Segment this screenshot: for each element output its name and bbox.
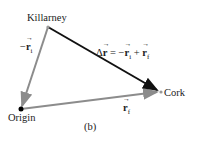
- r-symbol: r: [125, 47, 130, 58]
- rf-vector: [21, 92, 157, 109]
- subscript: f: [128, 108, 130, 116]
- r-symbol: r: [26, 41, 31, 52]
- killarney-label: Killarney: [27, 13, 67, 24]
- neg-ri-label: −ri: [20, 42, 33, 55]
- killarney-dot: [46, 25, 49, 28]
- vector-diagram: Killarney Cork Origin (b) −ri rf Δr = −r…: [0, 0, 199, 144]
- r-symbol: r: [103, 47, 108, 58]
- figure-label: (b): [84, 122, 96, 133]
- origin-dot: [19, 107, 24, 112]
- origin-label: Origin: [8, 113, 35, 124]
- plus-sign: +: [131, 47, 142, 58]
- delta-symbol: Δ: [96, 47, 103, 58]
- cork-dot: [159, 90, 162, 93]
- cork-label: Cork: [164, 88, 185, 99]
- delta-r-equation: Δr = −ri + rf: [96, 48, 149, 61]
- equals-minus: = −: [107, 47, 124, 58]
- r-symbol: r: [123, 102, 128, 113]
- subscript: f: [147, 53, 149, 61]
- r-symbol: r: [142, 47, 147, 58]
- rf-label: rf: [123, 103, 130, 116]
